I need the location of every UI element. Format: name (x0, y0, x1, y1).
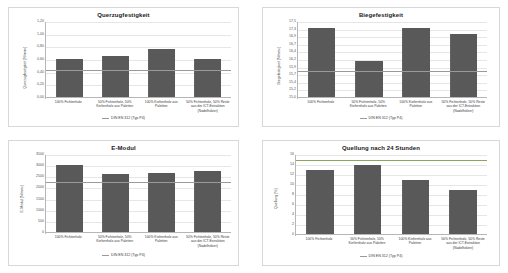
legend-line-swatch (360, 256, 367, 257)
plot-area: 1,20 1,00 0,80 0,60 0,40 0,20 0,00 (45, 22, 231, 98)
y-tick: 15,7 (289, 73, 298, 77)
bar-series (298, 22, 487, 97)
y-tick: 17,3 (289, 28, 298, 32)
bar-2 (402, 180, 430, 234)
y-tick: 0,20 (37, 84, 46, 88)
x-label: 50% Fichtenholz, 50% Kiefernholz aus Pal… (92, 235, 139, 248)
x-label: 100% Kiefernholz aus Paletten (392, 100, 440, 113)
bar-item (345, 22, 392, 97)
bar-item (298, 22, 345, 97)
bar-3 (194, 59, 221, 97)
chart-title: Querzugfestigkeit (9, 12, 238, 18)
bar-item (344, 155, 392, 234)
reference-line (298, 71, 487, 72)
x-axis-labels: 100% Fichtenholz 50% Fichtenholz, 50% Ki… (297, 100, 487, 113)
y-axis-label: Biegefestigkeit [N/mm²] (278, 35, 282, 97)
chart-panel-quellung: Quellung nach 24 Stunden Quellung [%] 16… (262, 140, 500, 266)
y-tick: 16,4 (289, 51, 298, 55)
legend-line-swatch (102, 118, 109, 119)
y-tick: 3500 (36, 153, 46, 157)
legend-label: DIN EN 312 (Typ P4) (111, 253, 145, 257)
y-tick: 0,60 (37, 58, 46, 62)
y-tick: 1,00 (37, 33, 46, 37)
x-label: 50% Fichtenholz, 50% Kiefernholz aus Pal… (345, 100, 393, 113)
x-axis-labels: 100% Fichtenholz 50% Fichtenholz, 50% Ki… (45, 235, 231, 248)
y-axis-label: E-Modul [N/mm²] (21, 169, 25, 229)
y-tick: 15,4 (289, 81, 298, 85)
chart-panel-biegefestigkeit: Biegefestigkeit Biegefestigkeit [N/mm²] (262, 7, 500, 127)
y-tick: 15,9 (289, 66, 298, 70)
x-label: 50% Fichtenholz, 50% Reste aus der ICT-E… (185, 235, 232, 248)
y-tick: 0,40 (37, 71, 46, 75)
bar-1 (354, 165, 382, 234)
reference-line (296, 160, 487, 161)
y-tick: 2500 (36, 175, 46, 179)
reference-line (46, 70, 231, 71)
x-label: 50% Fichtenholz, 50% Kiefernholz aus Pal… (92, 100, 139, 113)
legend-label: DIN EN 312 (Typ P4) (111, 116, 145, 120)
bar-0 (56, 165, 83, 232)
legend-label: DIN EN 312 (Typ P4) (369, 254, 403, 258)
chart-legend: DIN EN 312 (Typ P4) (9, 253, 238, 257)
bar-item (439, 155, 487, 234)
x-axis-labels: 100% Fichtenholz 50% Fichtenholz, 50% Ki… (45, 100, 231, 113)
x-label: 100% Fichtenholz (45, 100, 92, 113)
y-tick: 500 (38, 220, 46, 224)
chart-legend: DIN EN 312 (Typ P4) (263, 116, 499, 120)
bar-series (296, 155, 487, 234)
chart-panel-querzugfestigkeit: Querzugfestigkeit Querzugfestigkeit [N/m… (8, 7, 239, 127)
bar-item (46, 22, 92, 97)
y-tick: 17,5 (289, 20, 298, 24)
bar-3 (449, 190, 477, 234)
chart-legend: DIN EN 312 (Typ P4) (9, 116, 238, 120)
y-tick: 1500 (36, 198, 46, 202)
x-label: 50% Fichtenholz, 50% Reste aus der ICT-E… (439, 237, 487, 250)
figure-sheet: Querzugfestigkeit Querzugfestigkeit [N/m… (0, 0, 508, 273)
chart-title: Biegefestigkeit (263, 12, 499, 18)
y-tick: 16,9 (289, 35, 298, 39)
x-label: 50% Fichtenholz, 50% Reste aus der ICT-E… (440, 100, 488, 113)
bar-0 (306, 170, 334, 234)
plot-area: 17,5 17,3 16,9 16,7 16,4 16,2 15,9 15,7 … (297, 22, 487, 98)
y-tick: 0,80 (37, 46, 46, 50)
x-label: 100% Fichtenholz (45, 235, 92, 248)
legend-line-swatch (360, 118, 367, 119)
y-axis-label: Querzugfestigkeit [N/mm²] (24, 37, 28, 99)
x-label: 100% Kiefernholz aus Paletten (138, 235, 185, 248)
x-label: 50% Fichtenholz, 50% Kiefernholz aus Pal… (343, 237, 391, 250)
bar-2 (148, 49, 175, 97)
bar-0 (308, 28, 335, 97)
bar-0 (56, 59, 83, 97)
bar-1 (102, 56, 129, 97)
legend-label: DIN EN 312 (Typ P4) (369, 116, 403, 120)
bar-item (92, 22, 138, 97)
bar-item (440, 22, 487, 97)
y-tick: 16,7 (289, 43, 298, 47)
bar-3 (194, 171, 221, 232)
bar-item (393, 22, 440, 97)
bar-1 (102, 174, 129, 232)
bar-item (139, 155, 185, 232)
bar-2 (402, 28, 429, 97)
y-tick: 1,20 (37, 20, 46, 24)
bar-item (296, 155, 344, 234)
bar-item (185, 155, 231, 232)
x-label: 100% Kiefernholz aus Paletten (391, 237, 439, 250)
chart-panel-e-modul: E-Modul E-Modul [N/mm²] 3500 3000 2500 2… (8, 140, 239, 266)
bar-item (392, 155, 440, 234)
bar-series (46, 155, 231, 232)
chart-title: Quellung nach 24 Stunden (263, 145, 499, 151)
plot-area: 3500 3000 2500 2000 1500 1000 500 0 (45, 155, 231, 233)
x-axis-labels: 100% Fichtenholz 50% Fichtenholz, 50% Ki… (295, 237, 487, 250)
y-tick: 16,2 (289, 58, 298, 62)
bar-1 (355, 61, 382, 97)
x-label: 100% Fichtenholz (297, 100, 345, 113)
bar-item (46, 155, 92, 232)
x-label: 50% Fichtenholz, 50% Reste aus der ICT-E… (185, 100, 232, 113)
bar-3 (450, 34, 477, 97)
y-axis-label: Quellung [%] (275, 174, 279, 224)
y-tick: 1000 (36, 209, 46, 213)
y-tick: 2000 (36, 187, 46, 191)
bar-item (185, 22, 231, 97)
y-tick: 15,2 (289, 89, 298, 93)
